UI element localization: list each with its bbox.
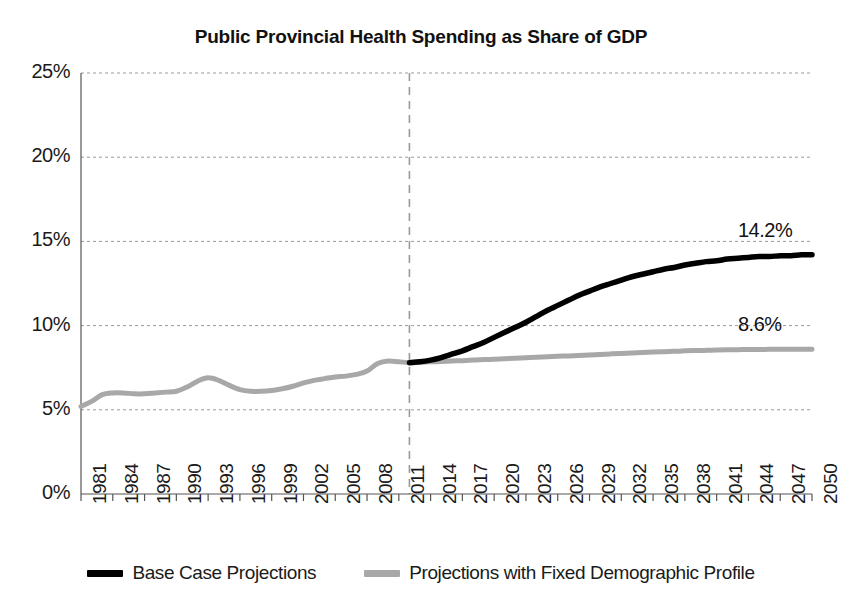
series-line-base-case (409, 255, 812, 363)
x-tick-label-2032: 2032 (629, 464, 651, 504)
chart-container: Public Provincial Health Spending as Sha… (0, 0, 842, 610)
x-tick-label-1987: 1987 (153, 464, 175, 504)
legend-label-base-case: Base Case Projections (132, 562, 316, 584)
data-label-fixed-demographic: 8.6% (738, 313, 782, 336)
y-tick-label-20: 20% (4, 144, 70, 167)
x-tick-label-2023: 2023 (534, 464, 556, 504)
x-tick-label-2008: 2008 (375, 464, 397, 504)
legend-swatch-fixed-demographic (364, 570, 400, 577)
axis-lines (81, 73, 812, 494)
x-tick-label-2011: 2011 (407, 465, 429, 504)
y-tick-label-25: 25% (4, 60, 70, 83)
x-tick-label-2044: 2044 (756, 464, 778, 504)
y-tick-label-15: 15% (4, 228, 70, 251)
legend-item-base-case[interactable]: Base Case Projections (87, 562, 316, 584)
x-tick-label-2041: 2041 (725, 464, 747, 504)
x-tick-label-1996: 1996 (248, 464, 270, 504)
x-tick-label-2026: 2026 (566, 464, 588, 504)
x-tick-label-2020: 2020 (502, 464, 524, 504)
y-tick-label-10: 10% (4, 313, 70, 336)
data-label-base-case: 14.2% (738, 219, 792, 242)
legend-item-fixed-demographic[interactable]: Projections with Fixed Demographic Profi… (364, 562, 754, 584)
x-tick-label-2050: 2050 (820, 464, 842, 504)
x-tick-label-1990: 1990 (184, 464, 206, 504)
data-series-layer (81, 255, 812, 407)
x-tick-label-2002: 2002 (311, 464, 333, 504)
x-tick-label-2047: 2047 (788, 464, 810, 504)
x-tick-label-1984: 1984 (121, 464, 143, 504)
legend-swatch-base-case (87, 570, 123, 577)
x-tick-label-1993: 1993 (216, 464, 238, 504)
x-tick-label-2038: 2038 (693, 464, 715, 504)
y-tick-label-0: 0% (4, 481, 70, 504)
x-tick-label-2005: 2005 (343, 464, 365, 504)
x-tick-label-2014: 2014 (439, 464, 461, 504)
x-tick-label-2029: 2029 (598, 464, 620, 504)
x-tick-label-2017: 2017 (470, 464, 492, 504)
x-tick-label-1981: 1981 (89, 464, 111, 504)
x-tick-label-2035: 2035 (661, 464, 683, 504)
legend-label-fixed-demographic: Projections with Fixed Demographic Profi… (409, 562, 754, 584)
chart-legend: Base Case Projections Projections with F… (0, 562, 842, 584)
y-tick-label-5: 5% (4, 397, 70, 420)
plot-area (0, 0, 842, 610)
x-tick-label-1999: 1999 (280, 464, 302, 504)
